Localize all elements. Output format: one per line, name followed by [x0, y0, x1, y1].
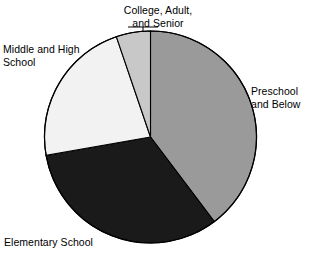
pie-chart-figure: College, Adult, and Senior Middle and Hi…	[0, 0, 309, 263]
pie-chart-canvas	[0, 0, 309, 263]
pie-label-middle-and-high-school: Middle and High School	[3, 43, 101, 68]
pie-label-elementary-school: Elementary School	[4, 236, 134, 249]
pie-label-college-adult-and-senior: College, Adult, and Senior	[106, 4, 210, 29]
pie-label-preschool-and-below: Preschool and Below	[251, 85, 309, 110]
